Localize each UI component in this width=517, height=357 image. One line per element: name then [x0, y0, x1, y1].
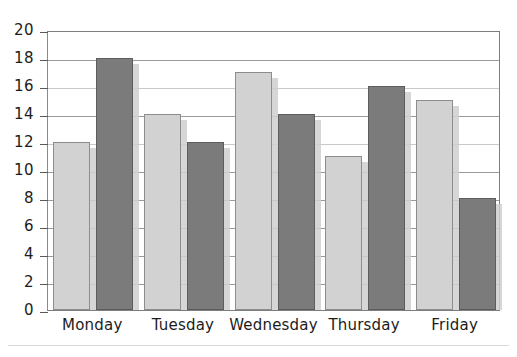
y-tick-4	[40, 256, 48, 257]
bar-wednesday-series-1	[235, 72, 272, 310]
bar-tuesday-series-2	[187, 142, 224, 310]
bar-thursday-series-1	[325, 156, 362, 310]
bar-friday-series-2	[459, 198, 496, 310]
plot-area	[47, 31, 500, 311]
x-axis-label-tuesday: Tuesday	[138, 316, 229, 334]
y-axis-label-14: 14	[0, 105, 34, 123]
bar-friday-series-1	[416, 100, 453, 310]
bar-wednesday-series-2	[278, 114, 315, 310]
y-axis-label-4: 4	[0, 245, 34, 263]
y-axis-label-12: 12	[0, 133, 34, 151]
y-axis-label-2: 2	[0, 273, 34, 291]
y-tick-2	[40, 284, 48, 285]
y-axis-label-8: 8	[0, 189, 34, 207]
y-tick-8	[40, 200, 48, 201]
x-axis-label-monday: Monday	[47, 316, 138, 334]
bar-thursday-series-2	[368, 86, 405, 310]
y-axis-label-20: 20	[0, 21, 34, 39]
y-axis-label-18: 18	[0, 49, 34, 67]
y-tick-16	[40, 88, 48, 89]
x-axis-label-friday: Friday	[409, 316, 500, 334]
y-axis-label-16: 16	[0, 77, 34, 95]
y-tick-14	[40, 116, 48, 117]
bar-monday-series-2	[96, 58, 133, 310]
y-tick-10	[40, 172, 48, 173]
y-axis-label-6: 6	[0, 217, 34, 235]
bar-monday-series-1	[53, 142, 90, 310]
x-axis-label-wednesday: Wednesday	[228, 316, 319, 334]
y-tick-12	[40, 144, 48, 145]
y-axis-label-0: 0	[0, 301, 34, 319]
bar-chart: 02468101214161820 MondayTuesdayWednesday…	[0, 0, 517, 357]
y-axis-label-10: 10	[0, 161, 34, 179]
y-tick-20	[40, 32, 48, 33]
footer-divider	[8, 345, 509, 346]
bar-tuesday-series-1	[144, 114, 181, 310]
y-tick-18	[40, 60, 48, 61]
y-tick-0	[40, 312, 48, 313]
x-axis-label-thursday: Thursday	[319, 316, 410, 334]
y-tick-6	[40, 228, 48, 229]
